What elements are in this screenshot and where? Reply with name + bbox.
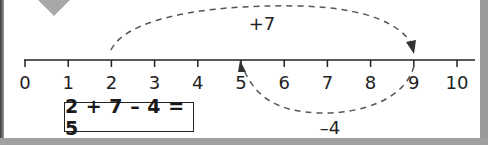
tick-label-7: 7	[322, 72, 333, 93]
tick-label-6: 6	[278, 72, 289, 93]
arrowhead-minus-icon	[238, 60, 246, 72]
tick-label-5: 5	[235, 72, 246, 93]
tick-label-2: 2	[106, 72, 117, 93]
tick-labels: 012345678910	[19, 72, 468, 93]
jump-label-minus: –4	[320, 117, 340, 138]
arrowhead-plus-icon	[406, 40, 416, 54]
number-line-figure: 012345678910 +7 –4 2 + 7 – 4 = 5	[0, 0, 488, 145]
tick-label-3: 3	[149, 72, 160, 93]
tick-label-1: 1	[62, 72, 73, 93]
tick-label-9: 9	[408, 72, 419, 93]
tick-label-0: 0	[19, 72, 30, 93]
tick-label-10: 10	[446, 72, 469, 93]
jump-label-plus: +7	[249, 13, 276, 34]
equation-box: 2 + 7 – 4 = 5	[64, 102, 194, 132]
pointer-triangle-icon	[38, 0, 70, 16]
tick-label-4: 4	[192, 72, 203, 93]
tick-label-8: 8	[365, 72, 376, 93]
